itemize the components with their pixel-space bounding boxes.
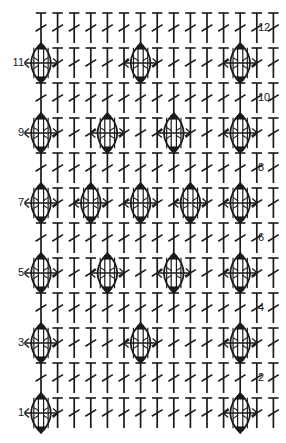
double-crochet-symbol	[152, 293, 163, 323]
row-number-label-4: 4	[258, 302, 282, 313]
double-crochet-symbol	[69, 398, 80, 428]
double-crochet-symbol	[152, 83, 163, 113]
stitch-row	[24, 393, 278, 433]
double-crochet-symbol	[202, 258, 213, 288]
double-crochet-symbol	[102, 13, 113, 43]
double-crochet-symbol	[185, 13, 196, 43]
stitch-row	[36, 83, 279, 113]
row-number-label-9: 9	[6, 127, 24, 138]
double-crochet-symbol	[185, 328, 196, 358]
double-crochet-symbol	[235, 223, 246, 253]
double-crochet-symbol	[69, 223, 80, 253]
double-crochet-symbol	[36, 83, 47, 113]
double-crochet-symbol	[69, 293, 80, 323]
crochet-chart: 121110987654321	[0, 0, 286, 443]
double-crochet-symbol	[218, 223, 229, 253]
double-crochet-symbol	[102, 153, 113, 183]
puff-stitch-symbol	[224, 393, 257, 433]
puff-stitch-symbol	[224, 253, 257, 293]
stitch-row	[36, 363, 279, 393]
double-crochet-symbol	[85, 223, 96, 253]
double-crochet-symbol	[268, 398, 279, 428]
puff-stitch-symbol	[124, 43, 157, 83]
double-crochet-symbol	[218, 293, 229, 323]
double-crochet-symbol	[202, 48, 213, 78]
double-crochet-symbol	[85, 153, 96, 183]
double-crochet-symbol	[185, 83, 196, 113]
double-crochet-symbol	[235, 153, 246, 183]
double-crochet-symbol	[168, 48, 179, 78]
double-crochet-symbol	[202, 83, 213, 113]
double-crochet-symbol	[135, 223, 146, 253]
double-crochet-symbol	[119, 293, 130, 323]
double-crochet-symbol	[185, 293, 196, 323]
double-crochet-symbol	[235, 83, 246, 113]
puff-stitch-symbol	[91, 113, 124, 153]
stitch-row	[24, 43, 278, 83]
double-crochet-symbol	[102, 328, 113, 358]
double-crochet-symbol	[135, 293, 146, 323]
double-crochet-symbol	[168, 223, 179, 253]
double-crochet-symbol	[168, 398, 179, 428]
double-crochet-symbol	[202, 223, 213, 253]
double-crochet-symbol	[85, 363, 96, 393]
puff-stitch-symbol	[74, 183, 107, 223]
double-crochet-symbol	[102, 83, 113, 113]
puff-stitch-symbol	[224, 113, 257, 153]
stitch-row	[36, 153, 279, 183]
double-crochet-symbol	[119, 153, 130, 183]
double-crochet-symbol	[202, 398, 213, 428]
double-crochet-symbol	[185, 398, 196, 428]
puff-stitch-symbol	[91, 253, 124, 293]
double-crochet-symbol	[119, 223, 130, 253]
double-crochet-symbol	[235, 363, 246, 393]
puff-stitch-symbol	[24, 253, 57, 293]
puff-stitch-symbol	[157, 253, 190, 293]
double-crochet-symbol	[36, 363, 47, 393]
stitch-row	[24, 323, 278, 363]
double-crochet-symbol	[102, 48, 113, 78]
double-crochet-symbol	[185, 223, 196, 253]
double-crochet-symbol	[69, 328, 80, 358]
double-crochet-symbol	[52, 153, 63, 183]
double-crochet-symbol	[85, 328, 96, 358]
double-crochet-symbol	[135, 398, 146, 428]
double-crochet-symbol	[69, 153, 80, 183]
double-crochet-symbol	[218, 13, 229, 43]
double-crochet-symbol	[152, 363, 163, 393]
double-crochet-symbol	[218, 83, 229, 113]
double-crochet-symbol	[168, 83, 179, 113]
stitch-row	[24, 113, 278, 153]
puff-stitch-symbol	[224, 43, 257, 83]
double-crochet-symbol	[85, 48, 96, 78]
double-crochet-symbol	[168, 13, 179, 43]
double-crochet-symbol	[202, 328, 213, 358]
row-number-label-2: 2	[258, 372, 282, 383]
double-crochet-symbol	[36, 13, 47, 43]
double-crochet-symbol	[202, 13, 213, 43]
double-crochet-symbol	[218, 153, 229, 183]
double-crochet-symbol	[202, 363, 213, 393]
puff-stitch-symbol	[224, 323, 257, 363]
double-crochet-symbol	[52, 13, 63, 43]
double-crochet-symbol	[52, 83, 63, 113]
stitch-grid-svg	[0, 0, 286, 443]
double-crochet-symbol	[185, 48, 196, 78]
double-crochet-symbol	[168, 363, 179, 393]
stitch-row	[36, 223, 279, 253]
double-crochet-symbol	[119, 398, 130, 428]
double-crochet-symbol	[85, 293, 96, 323]
puff-stitch-symbol	[124, 323, 157, 363]
double-crochet-symbol	[185, 153, 196, 183]
puff-stitch-symbol	[224, 183, 257, 223]
double-crochet-symbol	[152, 223, 163, 253]
double-crochet-symbol	[268, 118, 279, 148]
double-crochet-symbol	[168, 153, 179, 183]
double-crochet-symbol	[202, 118, 213, 148]
double-crochet-symbol	[85, 398, 96, 428]
double-crochet-symbol	[36, 223, 47, 253]
double-crochet-symbol	[85, 83, 96, 113]
double-crochet-symbol	[185, 363, 196, 393]
double-crochet-symbol	[202, 293, 213, 323]
double-crochet-symbol	[69, 83, 80, 113]
